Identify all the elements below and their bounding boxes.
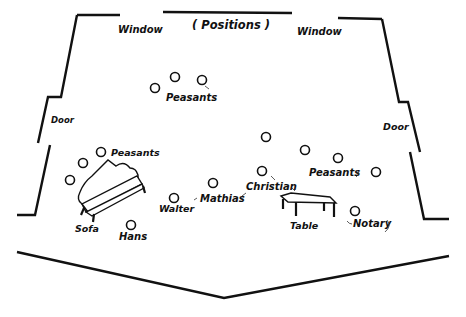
- sofa-icon: [78, 160, 145, 222]
- sofa-leg: [93, 214, 94, 222]
- notary-label: Notary: [353, 218, 392, 229]
- position-marker-peasant-right-2: [301, 146, 310, 155]
- right-wall-lower: [410, 152, 449, 219]
- peasants-sofa-label: Peasants: [111, 147, 160, 158]
- right-wall: [382, 19, 449, 219]
- leader-christian: [271, 176, 275, 180]
- mathias-label: Mathias: [200, 193, 245, 204]
- window-right-label: Window: [297, 26, 343, 37]
- door-left-label: Door: [51, 115, 75, 125]
- door-right-label: Door: [383, 121, 410, 132]
- position-marker-peasant-sofa-1: [97, 148, 106, 157]
- christian-label: Christian: [246, 181, 297, 192]
- leader-notary: [347, 221, 352, 224]
- stage-positions-diagram: Window ( Positions ) Window Door Door Pe…: [0, 0, 466, 317]
- position-marker-peasant-right-4: [372, 168, 381, 177]
- peasants-right-label: Peasants: [309, 167, 360, 178]
- sofa-leg: [143, 186, 145, 193]
- back-wall-right-segment: [338, 18, 382, 19]
- position-marker-mathias: [209, 179, 218, 188]
- sofa-label: Sofa: [75, 223, 99, 234]
- table-top: [281, 193, 336, 203]
- position-marker-peasant-right-1: [262, 133, 271, 142]
- back-wall-center-segment: [163, 12, 292, 13]
- position-marker-walter: [170, 194, 179, 203]
- position-marker-notary: [351, 207, 360, 216]
- peasants-top-label: Peasants: [166, 92, 217, 103]
- position-marker-peasant-sofa-3: [66, 176, 75, 185]
- hans-label: Hans: [119, 231, 147, 242]
- position-marker-peasant-top-1: [151, 84, 160, 93]
- table-label: Table: [290, 220, 319, 231]
- diagram-canvas: Window ( Positions ) Window Door Door Pe…: [0, 0, 466, 317]
- leader-walter: [194, 198, 197, 200]
- position-marker-peasant-top-2: [171, 73, 180, 82]
- walter-label: Walter: [159, 203, 195, 214]
- sofa-leg: [81, 208, 84, 215]
- position-marker-peasant-sofa-2: [79, 159, 88, 168]
- right-wall-upper: [382, 19, 420, 152]
- position-marker-christian: [258, 167, 267, 176]
- leader-peasants-top: [205, 86, 209, 89]
- stage-apron-line: [17, 252, 449, 298]
- diagram-title: ( Positions ): [192, 18, 270, 32]
- window-left-label: Window: [118, 24, 164, 35]
- left-wall-lower: [17, 145, 50, 215]
- table-icon: [281, 193, 336, 217]
- position-marker-peasant-right-3: [334, 154, 343, 163]
- position-marker-peasant-top-3: [198, 76, 207, 85]
- position-marker-hans: [127, 221, 136, 230]
